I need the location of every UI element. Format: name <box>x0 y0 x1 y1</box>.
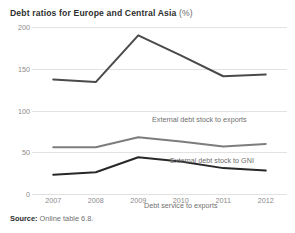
x-tick-2012: 2012 <box>258 196 274 205</box>
series-label-external-debt-stock-to-exports: External debt stock to exports <box>152 115 247 124</box>
plot-area: External debt stock to exports External … <box>32 27 287 194</box>
chart-figure: Debt ratios for Europe and Central Asia … <box>0 0 295 233</box>
y-tick-150: 150 <box>4 64 30 73</box>
series-line-external-debt-stock-to-gni <box>53 137 266 147</box>
y-tick-50: 50 <box>4 148 30 157</box>
x-tick-2010: 2010 <box>173 196 189 205</box>
source-label: Source: <box>10 214 38 223</box>
series-label-external-debt-stock-to-gni: External debt stock to GNI <box>170 156 254 165</box>
series-line-external-debt-stock-to-exports <box>53 35 266 82</box>
x-axis: 2007 2008 2009 2010 2011 2012 <box>32 196 287 210</box>
y-tick-200: 200 <box>4 23 30 32</box>
y-tick-0: 0 <box>4 190 30 199</box>
series-lines <box>32 27 287 194</box>
chart-title-text: Debt ratios for Europe and Central Asia <box>10 8 176 18</box>
y-axis: 200 150 100 50 0 <box>0 27 30 194</box>
y-tick-100: 100 <box>4 106 30 115</box>
x-tick-2007: 2007 <box>45 196 61 205</box>
x-tick-2009: 2009 <box>130 196 146 205</box>
x-tick-2011: 2011 <box>216 196 231 205</box>
source-text: Online table 6.8. <box>40 214 94 223</box>
chart-title: Debt ratios for Europe and Central Asia … <box>10 8 193 18</box>
gridline-0 <box>32 194 287 195</box>
source-note: Source: Online table 6.8. <box>10 214 93 223</box>
chart-title-unit: (%) <box>179 8 193 18</box>
x-tick-2008: 2008 <box>88 196 104 205</box>
